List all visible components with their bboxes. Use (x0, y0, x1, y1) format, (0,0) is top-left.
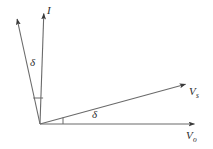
phasor-diagram-figure: I Vs Vo δ δ (0, 0, 213, 149)
label-voltage-vo: Vo (186, 130, 196, 141)
label-voltage-vs-subscript: s (196, 91, 199, 100)
vector-i-line (40, 14, 44, 125)
vector-vs-line (40, 84, 186, 124)
label-voltage-vs-main: V (189, 85, 196, 97)
label-voltage-vs: Vs (189, 86, 199, 97)
phasor-diagram-canvas (0, 0, 213, 149)
label-angle-delta-lower: δ (92, 109, 97, 120)
vector-i-reference-line (17, 19, 40, 124)
label-voltage-vo-subscript: o (193, 135, 197, 144)
label-angle-delta-upper: δ (30, 57, 35, 68)
label-current-i: I (47, 5, 51, 16)
label-voltage-vo-main: V (186, 129, 193, 141)
